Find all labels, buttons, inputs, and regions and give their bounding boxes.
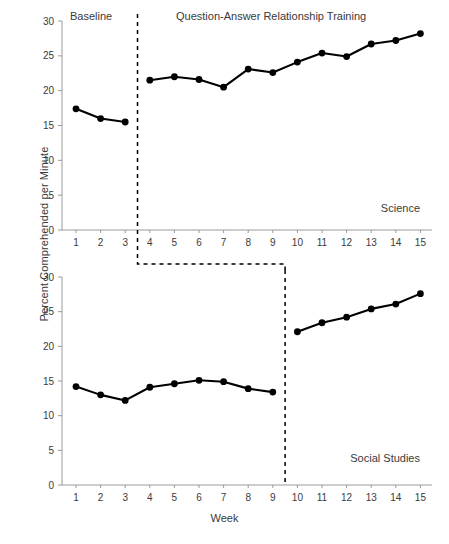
x-tick-label: 3 — [122, 492, 128, 503]
y-axis-label: Percent Comprehended per Minute — [38, 104, 50, 364]
top-panel-axes — [58, 21, 432, 233]
y-tick-label: 30 — [43, 16, 55, 27]
x-tick-label: 14 — [390, 492, 402, 503]
x-tick-label: 2 — [98, 492, 104, 503]
x-tick-label: 2 — [98, 237, 104, 248]
x-tick-label: 12 — [341, 237, 353, 248]
y-tick-label: 25 — [43, 50, 55, 61]
data-point — [319, 50, 326, 57]
x-tick-label: 10 — [292, 237, 304, 248]
x-tick-label: 11 — [317, 492, 328, 503]
data-point — [343, 314, 350, 321]
data-point — [220, 84, 227, 91]
x-tick-label: 4 — [147, 492, 153, 503]
x-tick-label: 15 — [415, 492, 427, 503]
data-point — [294, 328, 301, 335]
bottom-condition-label: Social Studies — [350, 452, 420, 464]
x-tick-label: 8 — [245, 492, 251, 503]
data-point — [368, 305, 375, 312]
x-tick-label: 7 — [221, 237, 227, 248]
x-tick-label: 5 — [172, 492, 178, 503]
y-tick-label: 0 — [48, 480, 54, 491]
x-tick-label: 5 — [172, 237, 178, 248]
y-tick-label: 15 — [43, 376, 55, 387]
data-point — [97, 115, 104, 122]
data-point — [245, 66, 252, 73]
data-point — [368, 41, 375, 48]
x-tick-label: 4 — [147, 237, 153, 248]
top-panel: 051015202530 123456789101112131415 Basel… — [43, 10, 432, 248]
data-point — [417, 30, 424, 37]
data-line-question-answer-relationship-training — [297, 294, 420, 332]
top-phase-label-training: Question-Answer Relationship Training — [176, 10, 366, 22]
data-point — [73, 105, 80, 112]
data-point — [392, 37, 399, 44]
data-line-question-answer-relationship-training — [150, 34, 421, 88]
x-tick-label: 10 — [292, 492, 304, 503]
x-tick-label: 14 — [390, 237, 402, 248]
y-tick-label: 5 — [48, 445, 54, 456]
top-panel-data-series — [73, 30, 424, 125]
phase-change-connector-path — [138, 230, 286, 270]
data-point — [220, 378, 227, 385]
x-tick-label: 11 — [317, 237, 328, 248]
x-tick-label: 3 — [122, 237, 128, 248]
x-tick-label: 12 — [341, 492, 353, 503]
data-point — [245, 385, 252, 392]
x-tick-label: 1 — [73, 492, 79, 503]
data-point — [171, 73, 178, 80]
top-condition-label: Science — [381, 202, 420, 214]
x-tick-label: 13 — [366, 492, 378, 503]
data-point — [417, 290, 424, 297]
x-tick-label: 15 — [415, 237, 427, 248]
data-point — [319, 319, 326, 326]
data-point — [97, 391, 104, 398]
bottom-panel-data-series — [73, 290, 424, 404]
data-point — [269, 389, 276, 396]
plot-canvas: 051015202530 123456789101112131415 Basel… — [0, 0, 449, 544]
phase-change-connector — [138, 230, 286, 270]
data-point — [294, 59, 301, 66]
x-axis-label: Week — [0, 512, 449, 524]
x-tick-label: 9 — [270, 492, 276, 503]
x-tick-label: 7 — [221, 492, 227, 503]
multiple-baseline-figure: Percent Comprehended per Minute Week 051… — [0, 0, 449, 544]
data-point — [122, 119, 129, 126]
top-panel-x-tick-labels: 123456789101112131415 — [73, 237, 426, 248]
data-point — [146, 77, 153, 84]
top-phase-label-baseline: Baseline — [70, 10, 112, 22]
data-point — [122, 397, 129, 404]
data-point — [146, 384, 153, 391]
x-tick-label: 9 — [270, 237, 276, 248]
data-point — [171, 380, 178, 387]
data-point — [196, 76, 203, 83]
data-point — [269, 69, 276, 76]
y-tick-label: 10 — [43, 410, 55, 421]
x-tick-label: 13 — [366, 237, 378, 248]
data-point — [343, 53, 350, 60]
y-tick-label: 20 — [43, 85, 55, 96]
x-tick-label: 1 — [73, 237, 79, 248]
bottom-panel: 051015202530 123456789101112131415 Socia… — [43, 270, 432, 503]
bottom-panel-x-tick-labels: 123456789101112131415 — [73, 492, 426, 503]
x-tick-label: 6 — [196, 492, 202, 503]
x-tick-label: 6 — [196, 237, 202, 248]
data-point — [196, 377, 203, 384]
x-tick-label: 8 — [245, 237, 251, 248]
data-point — [73, 383, 80, 390]
data-point — [392, 301, 399, 308]
